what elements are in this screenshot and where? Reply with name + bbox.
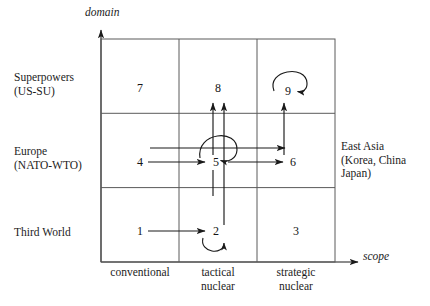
cell-9: 9 bbox=[285, 84, 291, 99]
row-label-third-world: Third World bbox=[14, 226, 71, 240]
cell-1: 1 bbox=[137, 224, 143, 239]
escalation-arrows bbox=[148, 72, 307, 252]
cell-7: 7 bbox=[137, 81, 143, 96]
column-label-tactical-nuclear: tactical nuclear bbox=[201, 266, 235, 293]
row-label-superpowers: Superpowers (US-SU) bbox=[14, 71, 74, 98]
row-label-europe: Europe (NATO-WTO) bbox=[14, 145, 82, 172]
cell-5: 5 bbox=[213, 155, 219, 170]
y-axis-label: domain bbox=[85, 6, 120, 18]
cell-4: 4 bbox=[137, 155, 143, 170]
column-label-conventional: conventional bbox=[110, 266, 169, 280]
side-note-east-asia: East Asia (Korea, China Japan) bbox=[341, 140, 406, 181]
x-axis-label: scope bbox=[363, 250, 389, 262]
cell-3: 3 bbox=[293, 224, 299, 239]
column-label-strategic-nuclear: strategic nuclear bbox=[277, 266, 316, 293]
cell-2: 2 bbox=[213, 224, 219, 239]
cell-8: 8 bbox=[215, 81, 221, 96]
self-loop-2 bbox=[203, 238, 224, 251]
cell-6: 6 bbox=[290, 155, 296, 170]
escalation-matrix-figure: domain scope Superpowers (US-SU) Europe … bbox=[0, 0, 430, 306]
